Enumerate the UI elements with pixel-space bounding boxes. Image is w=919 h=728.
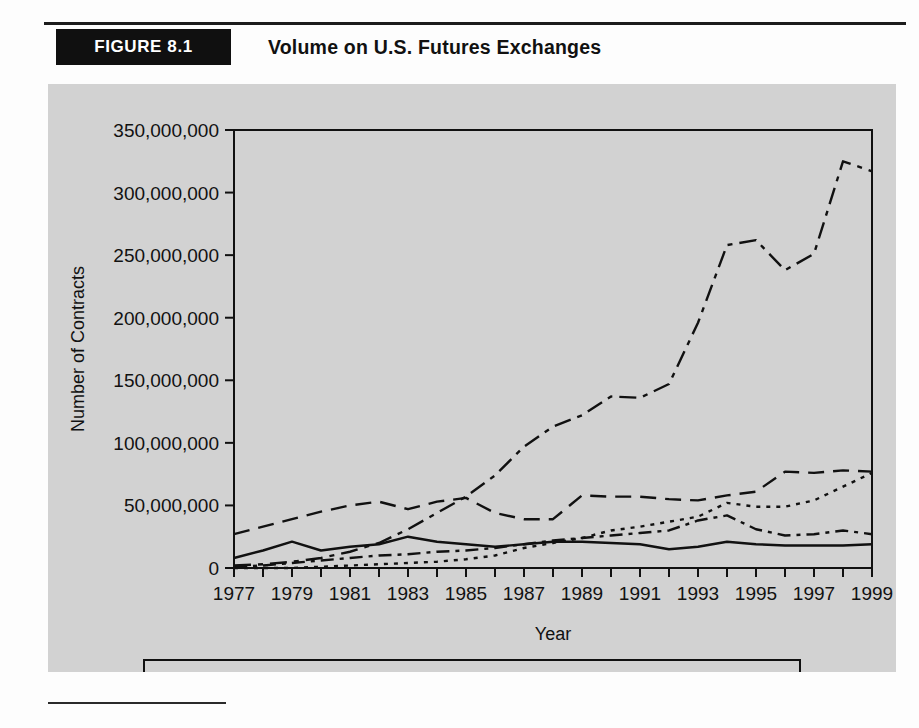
x-tick-label: 1999 [851,583,893,604]
chart-legend: AgricultureEnergyMetalsFinancialsCurrenc… [144,660,800,672]
x-tick-label: 1979 [271,583,313,604]
y-axis-title: Number of Contracts [68,266,88,432]
y-tick-label: 100,000,000 [113,433,219,454]
y-axis-ticks: 050,000,000100,000,000150,000,000200,000… [113,120,234,579]
volume-line-chart: 050,000,000100,000,000150,000,000200,000… [48,84,896,672]
x-tick-label: 1981 [329,583,371,604]
y-tick-label: 250,000,000 [113,245,219,266]
series-line-energy [234,473,872,568]
series-line-financials [234,515,872,566]
x-tick-label: 1995 [735,583,777,604]
x-axis-ticks: 1977197919811983198519871989199119931995… [213,568,893,604]
legend-label-currencies: Currencies [703,670,788,672]
series-line-currencies [234,161,872,565]
x-tick-label: 1985 [445,583,487,604]
x-tick-label: 1983 [387,583,429,604]
legend-label-financials: Financials [567,670,646,672]
plot-frame [234,130,872,568]
data-series-layer [234,161,872,568]
x-tick-label: 1991 [619,583,661,604]
x-tick-label: 1987 [503,583,545,604]
y-tick-label: 200,000,000 [113,308,219,329]
x-axis-title: Year [535,624,571,644]
y-tick-label: 0 [208,558,219,579]
y-tick-label: 150,000,000 [113,370,219,391]
y-tick-label: 350,000,000 [113,120,219,141]
series-line-agriculture [234,470,872,534]
legend-label-agriculture: Agriculture [209,670,293,672]
y-tick-label: 50,000,000 [124,495,219,516]
x-tick-label: 1997 [793,583,835,604]
chart-panel: 050,000,000100,000,000150,000,000200,000… [48,84,896,672]
footnote-rule [48,702,226,704]
x-tick-label: 1977 [213,583,255,604]
y-tick-label: 300,000,000 [113,183,219,204]
page-canvas: FIGURE 8.1 Volume on U.S. Futures Exchan… [0,0,919,728]
chart-axes-layer [234,130,872,568]
figure-title: Volume on U.S. Futures Exchanges [268,29,601,65]
figure-number-badge: FIGURE 8.1 [56,29,231,65]
header-rule [44,22,906,25]
legend-label-metals: Metals [463,670,515,672]
x-tick-label: 1993 [677,583,719,604]
legend-label-energy: Energy [355,670,411,672]
x-tick-label: 1989 [561,583,603,604]
